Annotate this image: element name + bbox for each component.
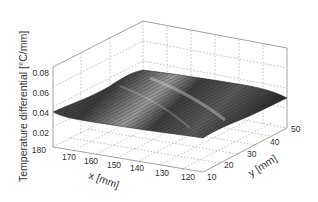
z-tick: 0.02 xyxy=(32,128,49,138)
z-axis-ticks: 0.08 0.06 0.04 0.02 xyxy=(32,68,49,138)
x-tick: 160 xyxy=(84,156,98,166)
y-tick: 40 xyxy=(270,137,280,147)
z-tick: 0.08 xyxy=(32,68,49,78)
x-tick: 180 xyxy=(32,145,46,155)
y-tick: 20 xyxy=(224,160,234,170)
y-tick: 10 xyxy=(207,172,217,182)
x-tick: 150 xyxy=(107,160,121,170)
temperature-surface xyxy=(53,70,287,138)
z-tick: 0.04 xyxy=(32,108,49,118)
y-tick: 30 xyxy=(247,149,257,159)
surface-plot: 0.08 0.06 0.04 0.02 180 170 160 150 140 … xyxy=(0,0,318,202)
x-tick: 170 xyxy=(62,152,76,162)
x-tick: 120 xyxy=(181,172,195,182)
z-tick: 0.06 xyxy=(32,88,49,98)
x-tick: 130 xyxy=(155,168,169,178)
z-axis-label: Temperature differential [°C/mm] xyxy=(17,31,29,182)
x-axis-label: x [mm] xyxy=(87,169,121,191)
y-tick: 50 xyxy=(291,124,301,134)
x-tick: 140 xyxy=(130,163,144,173)
